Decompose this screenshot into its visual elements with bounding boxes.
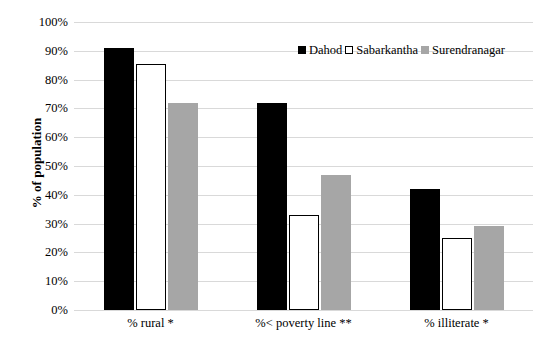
y-axis-tick-label: 80% [6,72,68,87]
bar-dahod[interactable] [104,48,134,310]
bar-sabarkantha[interactable] [289,215,319,310]
y-axis-tick-label: 50% [6,159,68,174]
y-axis-tick-label: 100% [6,15,68,30]
legend-swatch-icon [298,46,306,54]
bar-surendranagar[interactable] [321,175,351,310]
x-axis-tick-labels: % rural *%< poverty line **% illiterate … [74,312,533,338]
y-axis-tick-label: 10% [6,274,68,289]
bar-dahod[interactable] [257,103,287,310]
legend-label: Surendranagar [432,44,505,57]
bar-dahod[interactable] [410,189,440,310]
bar-group [257,22,351,310]
bar-chart: % of population 100%90%80%70%60%50%40%30… [0,0,547,340]
legend-item-dahod[interactable]: Dahod [298,44,342,57]
plot-area [74,22,533,310]
y-axis-tick-label: 30% [6,216,68,231]
y-axis-tick-label: 60% [6,130,68,145]
y-axis-tick-label: 90% [6,43,68,58]
legend-item-sabarkantha[interactable]: Sabarkantha [345,44,418,57]
bar-group [104,22,198,310]
legend: DahodSabarkanthaSurendranagar [298,44,505,57]
bar-surendranagar[interactable] [168,103,198,310]
y-axis-tick-labels: 100%90%80%70%60%50%40%30%20%10%0% [0,22,68,310]
gridline [74,310,533,311]
y-axis-tick-label: 40% [6,187,68,202]
x-axis-tick-label: % illiterate * [424,316,489,331]
x-axis-tick-label: %< poverty line ** [255,316,351,331]
legend-label: Sabarkantha [356,44,418,57]
x-axis-tick-label: % rural * [127,316,174,331]
y-axis-tick-label: 20% [6,245,68,260]
legend-label: Dahod [309,44,342,57]
legend-item-surendranagar[interactable]: Surendranagar [421,44,505,57]
y-axis-tick-label: 70% [6,101,68,116]
bar-sabarkantha[interactable] [136,64,166,310]
legend-swatch-icon [421,46,429,54]
legend-swatch-icon [345,46,353,54]
y-axis-tick-label: 0% [6,303,68,318]
bar-surendranagar[interactable] [474,226,504,310]
bar-sabarkantha[interactable] [442,238,472,310]
bar-group [410,22,504,310]
